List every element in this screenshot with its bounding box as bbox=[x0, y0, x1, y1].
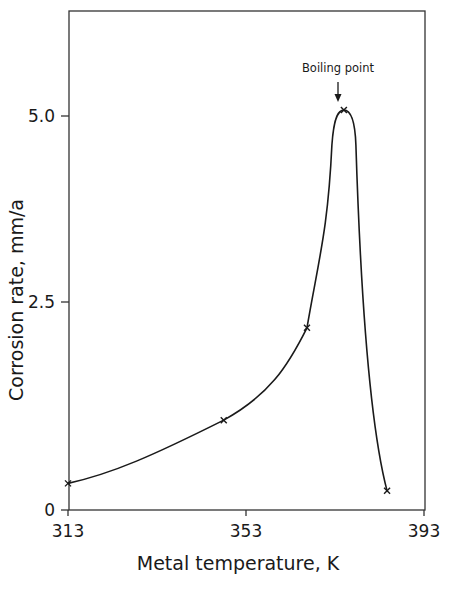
x-tick-label: 393 bbox=[408, 521, 440, 541]
x-axis-title: Metal temperature, K bbox=[137, 552, 340, 574]
x-axis-ticks: 313353393 bbox=[52, 510, 440, 541]
x-tick-label: 353 bbox=[230, 521, 262, 541]
corrosion-rate-curve bbox=[68, 110, 387, 491]
plot-frame bbox=[69, 11, 425, 510]
chart: 02.55.0 313353393 Boiling point Metal te… bbox=[0, 0, 452, 589]
y-axis-ticks: 02.55.0 bbox=[28, 106, 69, 520]
y-tick-label: 5.0 bbox=[28, 106, 55, 126]
boiling-point-annotation: Boiling point bbox=[302, 61, 375, 102]
x-tick-label: 313 bbox=[52, 521, 84, 541]
y-tick-label: 2.5 bbox=[28, 292, 55, 312]
arrow-down-icon bbox=[335, 94, 342, 102]
chart-canvas: 02.55.0 313353393 Boiling point Metal te… bbox=[0, 0, 452, 589]
x-marker-icon bbox=[221, 417, 227, 423]
boiling-point-label: Boiling point bbox=[302, 61, 375, 75]
y-axis-title: Corrosion rate, mm/a bbox=[5, 199, 27, 401]
data-point-markers bbox=[65, 107, 390, 494]
y-tick-label: 0 bbox=[44, 500, 55, 520]
